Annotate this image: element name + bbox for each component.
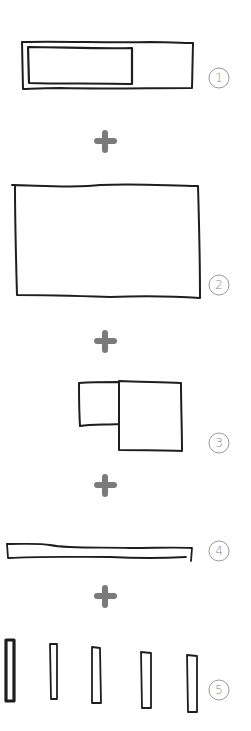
plus-icon xyxy=(97,477,114,494)
step-4-shape xyxy=(7,544,192,561)
thin-horizontal-bar-bottom xyxy=(7,544,186,558)
inner-rectangle xyxy=(28,47,132,84)
step-number: 1 xyxy=(215,71,223,85)
vertical-bar-1 xyxy=(6,640,14,701)
sketch-diagram: 1 2 3 4 xyxy=(0,0,251,731)
vertical-bar-3 xyxy=(92,647,101,703)
step-2-shape xyxy=(12,184,200,298)
vertical-bar-2 xyxy=(50,644,57,699)
step-4-label: 4 xyxy=(209,541,229,561)
vertical-bar-5 xyxy=(187,655,197,712)
small-square xyxy=(79,382,119,426)
step-1-label: 1 xyxy=(209,68,229,88)
step-3-label: 3 xyxy=(209,433,229,453)
step-1-shape xyxy=(22,42,193,89)
step-number: 3 xyxy=(215,436,223,450)
large-square xyxy=(119,381,182,451)
step-number: 2 xyxy=(215,278,223,292)
step-3-shape xyxy=(79,381,182,451)
step-number: 5 xyxy=(215,683,223,697)
plus-icon xyxy=(97,588,114,605)
plus-icon xyxy=(97,333,114,350)
step-number: 4 xyxy=(215,544,223,558)
step-5-label: 5 xyxy=(209,680,229,700)
step-2-label: 2 xyxy=(209,275,229,295)
step-5-shape xyxy=(6,640,197,712)
large-rectangle xyxy=(12,184,200,298)
plus-icon xyxy=(97,133,114,150)
vertical-bar-4 xyxy=(141,652,151,708)
